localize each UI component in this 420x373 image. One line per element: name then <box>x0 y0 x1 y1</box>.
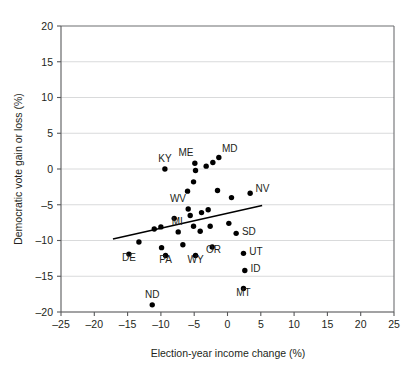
point-label-md: MD <box>222 143 238 154</box>
tick-marks-group <box>57 26 394 316</box>
x-axis-title: Election-year income change (%) <box>151 347 306 359</box>
point-label-wy: WY <box>187 254 203 265</box>
y-tick-label: –5 <box>41 199 53 211</box>
data-point <box>226 221 231 226</box>
data-point <box>191 179 196 184</box>
data-point <box>203 163 208 168</box>
y-tick-label: 20 <box>41 20 53 32</box>
x-tick-label: –10 <box>152 318 170 330</box>
point-label-nv: NV <box>255 183 269 194</box>
x-tick-label: –5 <box>188 318 200 330</box>
data-point-md <box>216 155 221 160</box>
x-tick-label: 0 <box>225 318 231 330</box>
data-point <box>188 213 193 218</box>
y-tick-label: 15 <box>41 56 53 68</box>
data-point-nv <box>247 191 252 196</box>
point-label-sd: SD <box>242 226 256 237</box>
data-point <box>210 160 215 165</box>
x-tick-label: 15 <box>322 318 334 330</box>
x-tick-label: 5 <box>258 318 264 330</box>
y-axis-title: Democratic vote gain or loss (%) <box>12 93 24 245</box>
data-point <box>207 224 212 229</box>
point-label-nd: ND <box>145 289 159 300</box>
point-label-or: OR <box>206 244 221 255</box>
point-label-de: DE <box>122 252 136 263</box>
data-point <box>180 242 185 247</box>
data-point-sd <box>233 231 238 236</box>
x-tick-label: –20 <box>86 318 104 330</box>
gridlines-group <box>61 62 394 312</box>
data-point-nd <box>150 302 155 307</box>
tick-labels-group: –20–15–10–505101520–25–20–15–10–50510152… <box>35 20 400 330</box>
data-point <box>197 229 202 234</box>
data-point <box>158 224 163 229</box>
data-point-ut <box>241 251 246 256</box>
data-point-id <box>242 268 247 273</box>
data-point <box>229 195 234 200</box>
y-tick-label: –15 <box>35 270 53 282</box>
point-label-ky: KY <box>158 153 172 164</box>
data-point-ky <box>162 166 167 171</box>
data-point <box>152 226 157 231</box>
data-point <box>205 207 210 212</box>
data-point <box>215 188 220 193</box>
point-label-me: ME <box>179 147 194 158</box>
data-point-wv <box>186 206 191 211</box>
data-point-me <box>192 161 197 166</box>
scatter-plot-figure: –20–15–10–505101520–25–20–15–10–50510152… <box>0 0 420 373</box>
y-tick-label: –20 <box>35 306 53 318</box>
point-label-mt: MT <box>236 287 250 298</box>
x-tick-label: –15 <box>119 318 137 330</box>
x-tick-label: –25 <box>52 318 70 330</box>
x-tick-label: 10 <box>288 318 300 330</box>
point-label-mi: MI <box>172 216 183 227</box>
data-point <box>191 224 196 229</box>
point-label-pa: PA <box>159 254 172 265</box>
data-point <box>136 239 141 244</box>
point-label-ut: UT <box>249 246 262 257</box>
chart-canvas: –20–15–10–505101520–25–20–15–10–50510152… <box>0 0 420 373</box>
y-tick-label: –10 <box>35 234 53 246</box>
y-tick-label: 5 <box>47 127 53 139</box>
point-label-wv: WV <box>170 193 186 204</box>
y-tick-label: 10 <box>41 91 53 103</box>
data-point <box>159 245 164 250</box>
x-tick-label: 25 <box>388 318 400 330</box>
data-point <box>199 210 204 215</box>
x-tick-label: 20 <box>355 318 367 330</box>
data-point <box>193 168 198 173</box>
data-point-mi <box>176 229 181 234</box>
y-tick-label: 0 <box>47 163 53 175</box>
point-label-id: ID <box>251 263 261 274</box>
